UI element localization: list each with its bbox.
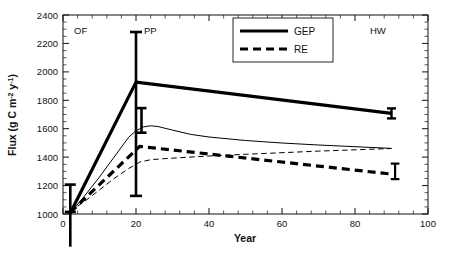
- x-tick-label-60: 60: [277, 218, 288, 229]
- x-tick-label-0: 0: [60, 218, 65, 229]
- y-tick-label-1800: 1800: [37, 95, 58, 106]
- y-tick-label-2200: 2200: [37, 38, 58, 49]
- flux-vs-year-chart: 1000 1200 1400 1600 1800 2000 2200 2400: [0, 0, 454, 257]
- y-axis-title: Flux (g C m-2 y-1): [6, 74, 18, 156]
- legend-label-re: RE: [294, 44, 308, 55]
- y-tick-label-2000: 2000: [37, 66, 58, 77]
- x-tick-label-80: 80: [350, 218, 361, 229]
- x-tick-label-40: 40: [204, 218, 215, 229]
- stand-label-of: OF: [74, 25, 87, 36]
- y-tick-label-1000: 1000: [37, 209, 58, 220]
- legend-box: [233, 18, 333, 62]
- y-tick-label-1400: 1400: [37, 152, 58, 163]
- y-axis-title-prefix: Flux (g C m: [6, 99, 18, 156]
- y-axis-title-suffix: ): [6, 74, 18, 78]
- y-tick-label-1200: 1200: [37, 180, 58, 191]
- x-tick-label-100: 100: [420, 218, 436, 229]
- y-tick-labels: 1000 1200 1400 1600 1800 2000 2200 2400: [37, 10, 58, 220]
- chart-legend: GEP RE: [233, 18, 333, 62]
- x-axis-title: Year: [234, 232, 256, 244]
- y-axis-title-mid: y: [6, 84, 18, 93]
- stand-label-hw: HW: [370, 25, 386, 36]
- stand-label-pp: PP: [144, 25, 157, 36]
- y-tick-label-2400: 2400: [37, 10, 58, 21]
- x-tick-label-20: 20: [131, 218, 142, 229]
- y-tick-label-1600: 1600: [37, 123, 58, 134]
- legend-label-gep: GEP: [294, 26, 315, 37]
- x-tick-labels: 0 20 40 60 80 100: [60, 218, 436, 229]
- figure-container: 1000 1200 1400 1600 1800 2000 2200 2400: [0, 0, 454, 257]
- svg-text:Flux (g C m-2 y-1): Flux (g C m-2 y-1): [6, 74, 18, 156]
